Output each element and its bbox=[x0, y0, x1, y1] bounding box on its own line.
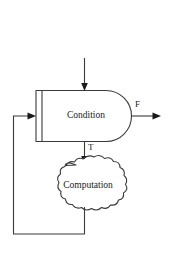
computation-label: Computation bbox=[63, 180, 113, 190]
node-condition[interactable]: Condition bbox=[36, 91, 132, 142]
edge-false-exit: F bbox=[132, 99, 162, 119]
flowchart-diagram: Condition F T Computation bbox=[0, 0, 170, 255]
false-arrow-head bbox=[153, 113, 162, 120]
flowchart-canvas: Condition F T Computation bbox=[0, 0, 170, 255]
true-branch-label: T bbox=[88, 142, 94, 152]
edge-entry-arrow bbox=[81, 58, 88, 91]
false-branch-label: F bbox=[135, 99, 140, 109]
node-computation[interactable]: Computation bbox=[58, 156, 127, 210]
condition-label: Condition bbox=[67, 110, 105, 120]
entry-arrow-head bbox=[81, 83, 88, 91]
feedback-arrow-head bbox=[28, 113, 37, 120]
